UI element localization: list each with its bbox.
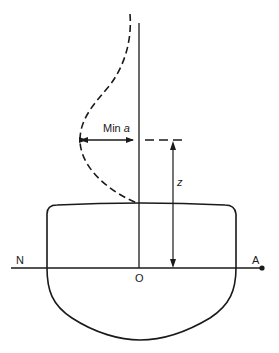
origin-label: O	[135, 272, 144, 284]
a-label: A	[252, 254, 260, 266]
min-a-arrow-left-head	[80, 137, 88, 143]
dashed-profile-curve	[80, 14, 137, 203]
z-arrow-top-head	[170, 141, 176, 150]
diagram-canvas: Min a z O N A	[0, 0, 279, 353]
axis-end-point-A	[259, 265, 264, 270]
min-a-label: Min a	[103, 122, 130, 134]
min-a-label-var: a	[124, 122, 130, 134]
n-label: N	[16, 254, 24, 266]
z-label: z	[176, 176, 183, 188]
z-arrow-bottom-head	[170, 259, 176, 268]
min-a-label-prefix: Min	[103, 122, 124, 134]
